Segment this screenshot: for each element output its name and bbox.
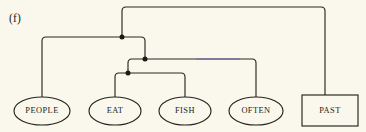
network-diagram-canvas: (f) PEOPLE — [0, 0, 366, 132]
node-eat-label: EAT — [107, 106, 124, 115]
node-people[interactable]: PEOPLE — [14, 97, 70, 125]
junction-dot-mid — [143, 57, 148, 62]
node-past[interactable]: PAST — [302, 95, 358, 126]
node-past-label: PAST — [319, 106, 341, 115]
node-people-label: PEOPLE — [25, 106, 58, 115]
node-often[interactable]: OFTEN — [229, 97, 283, 125]
node-fish-label: FISH — [175, 106, 195, 115]
semantic-network-figure: (f) PEOPLE — [0, 0, 366, 132]
node-fish[interactable]: FISH — [159, 97, 211, 125]
node-eat[interactable]: EAT — [89, 97, 141, 125]
node-often-label: OFTEN — [241, 106, 270, 115]
panel-label: (f) — [9, 12, 21, 25]
junction-dot-top — [120, 35, 125, 40]
junction-dot-low — [126, 71, 131, 76]
